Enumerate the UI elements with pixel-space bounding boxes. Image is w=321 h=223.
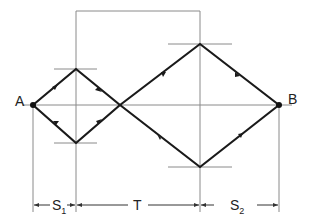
arrow-left-icon <box>34 203 39 207</box>
dimension-s2-label: S2 <box>230 197 244 216</box>
arrow-left-icon <box>201 203 206 207</box>
dimension-t-label: T <box>133 197 142 213</box>
path-diagram: A B S1 T S2 <box>0 0 321 223</box>
dimension-s1-label: S1 <box>52 197 66 216</box>
direction-arrows <box>52 72 243 140</box>
lower-path <box>33 44 279 143</box>
point-a-dot <box>30 102 36 108</box>
arrow-right-icon <box>194 203 199 207</box>
arrow-right-icon <box>70 203 75 207</box>
arrow-right-icon <box>273 203 278 207</box>
top-bracket <box>76 11 200 212</box>
point-b-dot <box>276 102 282 108</box>
point-b-label: B <box>288 91 297 107</box>
arrow-left-icon <box>77 203 82 207</box>
point-a-label: A <box>15 93 25 109</box>
construction-lines <box>22 11 292 212</box>
upper-path <box>33 69 279 167</box>
